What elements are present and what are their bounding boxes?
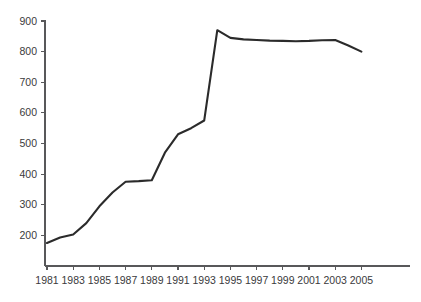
chart-canvas: 200300400500600700800900 198119831985198… (0, 0, 421, 302)
y-tick-label: 700 (19, 76, 37, 88)
y-tick-label: 300 (19, 198, 37, 210)
x-tick-label: 1981 (35, 274, 59, 286)
x-tick-label: 2003 (324, 274, 348, 286)
x-tick-label: 1991 (166, 274, 190, 286)
x-tick-label: 1985 (88, 274, 112, 286)
y-tick-label: 800 (19, 45, 37, 57)
x-tick-label: 1997 (245, 274, 269, 286)
y-tick-label: 500 (19, 137, 37, 149)
y-tick-label: 400 (19, 168, 37, 180)
y-tick-label: 900 (19, 15, 37, 27)
x-tick-label: 1987 (114, 274, 138, 286)
x-axis-ticks: 1981198319851987198919911993199519971999… (35, 266, 373, 286)
x-tick-label: 1993 (193, 274, 217, 286)
data-series-group (47, 30, 361, 243)
y-tick-label: 600 (19, 106, 37, 118)
y-tick-label: 200 (19, 229, 37, 241)
x-tick-label: 2001 (297, 274, 321, 286)
x-tick-label: 2005 (350, 274, 374, 286)
data-line-value (47, 30, 361, 243)
x-tick-label: 1995 (219, 274, 243, 286)
line-chart: 200300400500600700800900 198119831985198… (0, 0, 421, 302)
y-axis-ticks: 200300400500600700800900 (19, 15, 45, 241)
x-tick-label: 1999 (271, 274, 295, 286)
x-tick-label: 1989 (140, 274, 164, 286)
x-tick-label: 1983 (62, 274, 86, 286)
